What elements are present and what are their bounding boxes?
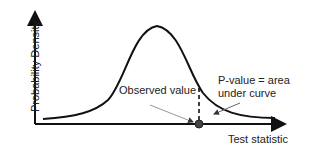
observed-pointer (150, 105, 193, 122)
x-axis-label: Test statistic (228, 133, 288, 146)
density-curve (43, 26, 275, 119)
pvalue-label-line2: under curve (218, 87, 276, 100)
observed-point (195, 120, 203, 128)
pvalue-pointer (214, 103, 240, 114)
observed-value-label: Observed value (119, 84, 196, 97)
y-axis-label: Probability Density (29, 12, 42, 122)
pvalue-label-line1: P-value = area (218, 74, 290, 87)
